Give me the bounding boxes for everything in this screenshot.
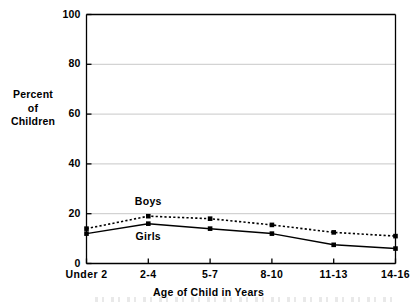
x-tick-label-3: 8-10 <box>261 268 284 280</box>
data-point-boys-1 <box>146 214 151 219</box>
x-tick-label-5: 14-16 <box>381 268 410 280</box>
data-point-girls-0 <box>84 231 89 236</box>
x-tick-label-1: 2-4 <box>140 268 156 280</box>
data-point-boys-4 <box>331 230 336 235</box>
x-tick-label-2: 5-7 <box>202 268 218 280</box>
page-scan-artifact <box>95 297 395 302</box>
gridline-group <box>87 64 396 213</box>
data-point-boys-2 <box>208 216 213 221</box>
data-point-girls-3 <box>270 231 275 236</box>
series-annotation-girls: Girls <box>136 230 161 242</box>
x-tick-label-4: 11-13 <box>320 268 348 280</box>
data-point-girls-4 <box>331 243 336 248</box>
series-group <box>84 214 398 251</box>
y-tick-mark-group <box>87 15 92 264</box>
series-annotation-boys: Boys <box>135 195 162 207</box>
series-line-girls <box>87 224 396 249</box>
data-point-girls-2 <box>208 226 213 231</box>
chart-figure: Percent of Children 020406080100 Under 2… <box>0 0 417 306</box>
plot-area <box>0 0 417 306</box>
data-point-girls-5 <box>393 246 398 251</box>
x-tick-label-0: Under 2 <box>66 268 108 280</box>
data-point-boys-0 <box>84 226 89 231</box>
data-point-boys-3 <box>270 223 275 228</box>
data-point-girls-1 <box>146 221 151 226</box>
data-point-boys-5 <box>393 234 398 239</box>
x-tick-mark-group <box>87 259 396 264</box>
